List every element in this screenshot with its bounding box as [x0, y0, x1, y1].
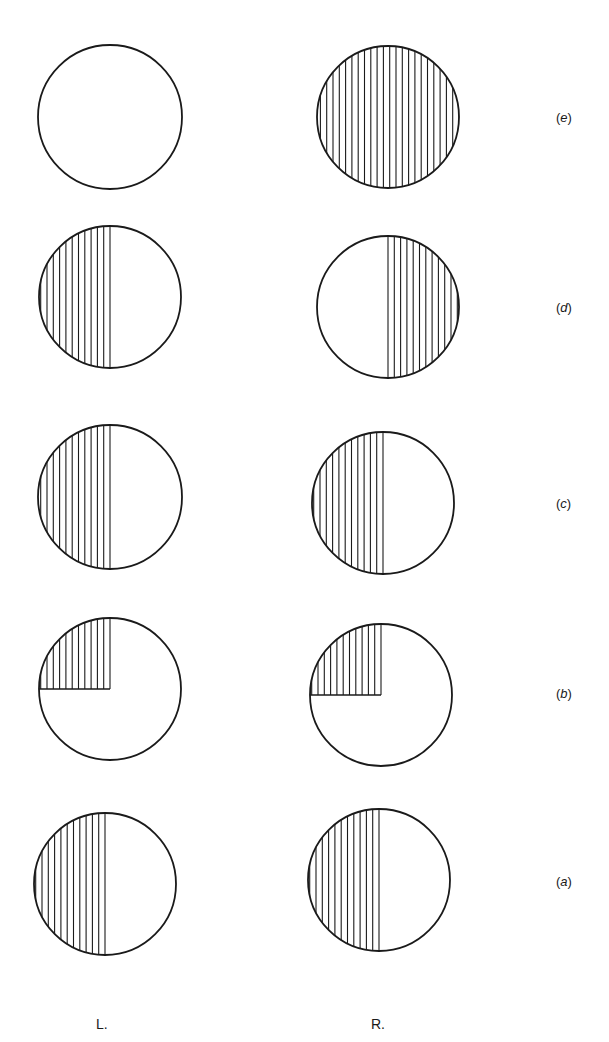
- hatch-shading: [36, 813, 105, 955]
- field-circle-b-l: [39, 618, 181, 760]
- hatch-shading: [388, 236, 457, 378]
- column-label-left: L.: [96, 1016, 108, 1032]
- column-label-right: R.: [371, 1016, 385, 1032]
- hatch-shading: [41, 226, 110, 368]
- field-circle-a-r: [308, 809, 450, 951]
- circle-outline: [317, 46, 459, 188]
- row-label-e: (e): [556, 110, 572, 125]
- row-label-a: (a): [556, 874, 572, 889]
- row-label-d: (d): [556, 300, 572, 315]
- hatch-shading: [312, 624, 381, 695]
- field-circle-d-l: [39, 226, 181, 368]
- field-circle-e-r: [317, 46, 459, 188]
- visual-field-diagram: [0, 0, 609, 1042]
- row-label-c: (c): [556, 496, 571, 511]
- field-circle-c-l: [38, 425, 182, 569]
- hatch-shading: [314, 432, 383, 574]
- row-label-b: (b): [556, 686, 572, 701]
- field-circle-a-l: [34, 813, 176, 955]
- hatch-shading: [41, 618, 110, 689]
- hatch-shading: [310, 809, 379, 951]
- field-circle-d-r: [317, 236, 459, 378]
- field-circle-e-l: [38, 45, 182, 189]
- hatch-shading: [41, 425, 110, 569]
- field-circle-c-r: [312, 432, 454, 574]
- circle-outline: [38, 45, 182, 189]
- field-circle-b-r: [310, 624, 452, 766]
